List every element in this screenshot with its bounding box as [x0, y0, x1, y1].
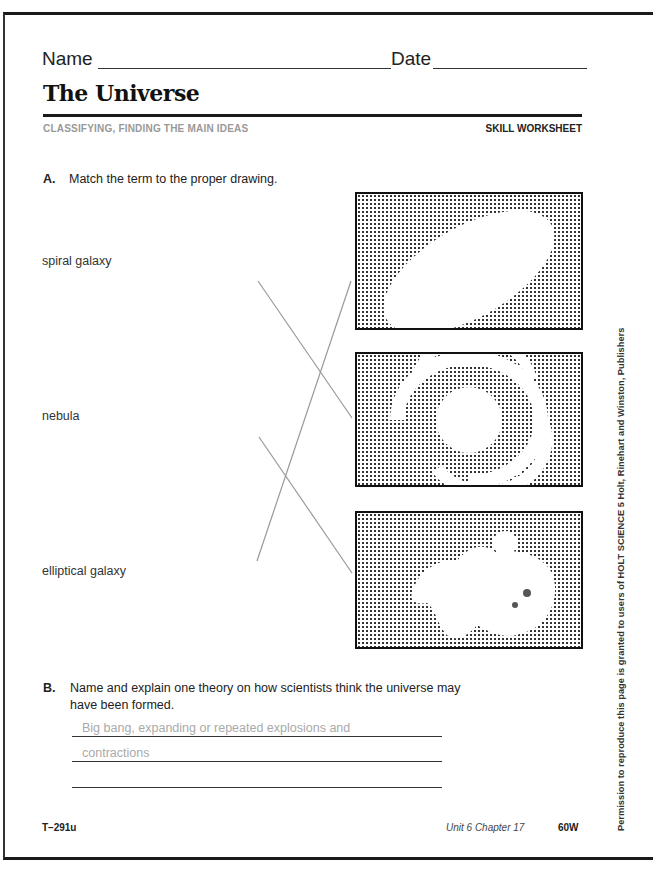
- footer-unit: Unit 6 Chapter 17: [446, 822, 524, 833]
- match-line-spiral: [258, 281, 352, 418]
- match-line-elliptical: [257, 281, 351, 561]
- section-b-question: B. Name and explain one theory on how sc…: [43, 680, 463, 697]
- answer-line-3[interactable]: [72, 769, 442, 788]
- match-line-nebula: [259, 437, 352, 573]
- permission-credit: Permission to reproduce this page is gra…: [616, 328, 626, 831]
- footer-code: T–291u: [42, 822, 76, 833]
- answer-text-2: contractions: [82, 746, 149, 760]
- answer-line-1[interactable]: Big bang, expanding or repeated explosio…: [72, 718, 442, 737]
- answer-line-2[interactable]: contractions: [72, 743, 442, 762]
- section-b-text: Name and explain one theory on how scien…: [70, 680, 470, 714]
- footer-page: 60W: [558, 822, 579, 833]
- answer-text-1: Big bang, expanding or repeated explosio…: [82, 721, 350, 735]
- section-b-label: B.: [43, 680, 69, 697]
